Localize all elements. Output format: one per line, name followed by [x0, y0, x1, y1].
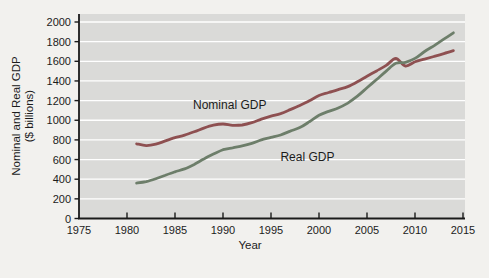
- y-tick-label-1200: 1200: [47, 95, 71, 107]
- x-tick-label-2010: 2010: [403, 224, 427, 236]
- x-tick-label-1975: 1975: [67, 224, 91, 236]
- x-axis-title: Year: [238, 239, 261, 251]
- gdp-line-chart: 0200400600800100012001400160018002000197…: [0, 0, 489, 278]
- nominal-gdp-line-label: Nominal GDP: [193, 98, 266, 112]
- y-tick-label-1400: 1400: [47, 75, 71, 87]
- y-tick-label-1600: 1600: [47, 55, 71, 67]
- y-tick-label-400: 400: [53, 173, 71, 185]
- y-axis-title-line2: ($ billions): [23, 90, 35, 143]
- x-tick-label-1990: 1990: [211, 224, 235, 236]
- x-tick-label-1980: 1980: [115, 224, 139, 236]
- y-tick-label-600: 600: [53, 154, 71, 166]
- x-tick-label-2015: 2015: [451, 224, 475, 236]
- y-tick-label-200: 200: [53, 193, 71, 205]
- x-tick-label-1995: 1995: [259, 224, 283, 236]
- gdp-chart-figure: 0200400600800100012001400160018002000197…: [0, 0, 489, 278]
- y-tick-label-1000: 1000: [47, 114, 71, 126]
- y-tick-label-2000: 2000: [47, 16, 71, 28]
- y-tick-label-800: 800: [53, 134, 71, 146]
- y-axis-title-line1: Nominal and Real GDP: [10, 56, 22, 176]
- y-tick-label-1800: 1800: [47, 36, 71, 48]
- x-tick-label-2000: 2000: [307, 224, 331, 236]
- real-gdp-line-label: Real GDP: [280, 150, 334, 164]
- x-tick-label-2005: 2005: [355, 224, 379, 236]
- x-tick-label-1985: 1985: [163, 224, 187, 236]
